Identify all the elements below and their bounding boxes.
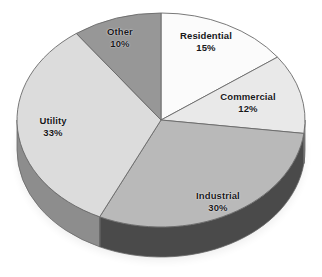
slice-label-name: Commercial (188, 91, 308, 103)
slice-label-value: 10% (60, 38, 180, 50)
slice-label-utility: Utility33% (0, 115, 113, 139)
slice-label-name: Industrial (158, 190, 278, 202)
slice-label-commercial: Commercial12% (188, 91, 308, 115)
pie-chart: Residential15%Commercial12%Industrial30%… (0, 0, 322, 277)
slice-label-other: Other10% (60, 26, 180, 50)
slice-label-industrial: Industrial30% (158, 190, 278, 214)
slice-label-name: Other (60, 26, 180, 38)
slice-label-name: Utility (0, 115, 113, 127)
slice-label-value: 30% (158, 202, 278, 214)
slice-label-value: 33% (0, 127, 113, 139)
slice-label-value: 12% (188, 103, 308, 115)
